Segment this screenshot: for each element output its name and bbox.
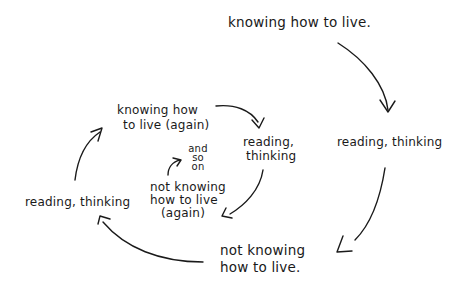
node-knowing-again-line1: knowing how [117, 104, 198, 117]
node-reading-inner-line2: thinking [246, 150, 296, 163]
arrow-not-knowing-again-to-and-so-on [168, 158, 181, 175]
arrow-reading-right-to-not-knowing [337, 168, 385, 252]
node-reading-inner-line1: reading, [243, 136, 294, 149]
node-knowing-again-line2: to live (again) [123, 119, 209, 132]
arrow-knowing-to-reading-right [338, 43, 395, 112]
node-not-knowing-line2: how to live. [220, 260, 300, 275]
node-and-so-on-line3: on [186, 162, 210, 171]
arrow-knowing-again-to-reading-inner [216, 106, 264, 128]
node-not-knowing-again-line3: (again) [150, 207, 216, 220]
arrow-reading-inner-to-not-knowing-again [222, 170, 263, 218]
node-not-knowing-line1: not knowing [220, 243, 305, 258]
node-reading-thinking-left: reading, thinking [25, 196, 130, 209]
arrow-not-knowing-to-reading-left [98, 216, 203, 262]
node-reading-thinking-right: reading, thinking [337, 136, 442, 149]
node-knowing-how-to-live: knowing how to live. [228, 15, 371, 30]
arrow-reading-left-to-knowing-again [75, 128, 102, 180]
